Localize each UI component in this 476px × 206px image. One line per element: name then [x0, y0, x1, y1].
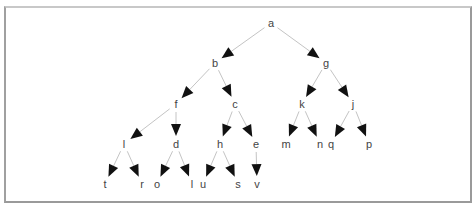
edge-a-b [231, 28, 264, 52]
arrowhead-icon [222, 124, 231, 137]
arrowhead-icon [306, 84, 316, 97]
arrowhead-icon [307, 47, 320, 58]
node-m: m [281, 138, 290, 150]
edge-k-m [293, 111, 299, 125]
node-b: b [212, 57, 218, 69]
node-t: t [103, 178, 106, 190]
node-e: e [253, 138, 259, 150]
edge-c-e [239, 111, 247, 126]
edge-j-p [356, 111, 362, 125]
edge-h-u [211, 151, 217, 165]
arrowhead-icon [357, 124, 366, 137]
arrowhead-icon [252, 164, 262, 176]
node-u: u [200, 178, 206, 190]
edge-g-j [330, 70, 342, 88]
node-a: a [268, 17, 275, 29]
node-h: h [217, 138, 223, 150]
arrowhead-icon [222, 47, 235, 58]
node-p: p [366, 138, 372, 150]
edge-h-s [223, 151, 230, 165]
arrowhead-icon [335, 124, 345, 137]
labels-layer: abgfckjldhemnqptrolusv [103, 17, 372, 190]
node-s: s [235, 178, 241, 190]
edge-l-r [127, 151, 134, 165]
edge-b-c [219, 70, 227, 86]
edge-g-k [312, 70, 322, 87]
node-r: r [140, 178, 144, 190]
edge-d-I [179, 151, 185, 165]
arrowhead-icon [289, 124, 298, 137]
node-o: o [154, 178, 160, 190]
edge-l-t [114, 151, 121, 166]
node-I: l [191, 178, 193, 190]
edge-k-n [305, 111, 312, 125]
arrowhead-icon [171, 124, 181, 136]
node-k: k [299, 98, 305, 110]
node-q: q [328, 138, 334, 150]
edge-j-q [341, 111, 350, 126]
arrowhead-icon [242, 124, 252, 137]
node-c: c [232, 98, 238, 110]
arrowhead-icon [338, 85, 349, 98]
arrowhead-icon [180, 164, 189, 177]
edge-c-h [227, 111, 232, 125]
edge-d-o [166, 151, 173, 166]
node-f: f [174, 98, 178, 110]
edge-f-l [140, 109, 170, 132]
arrowhead-icon [130, 128, 143, 139]
tree-diagram: abgfckjldhemnqptrolusv [0, 0, 476, 206]
arrowhead-icon [206, 164, 215, 177]
node-l: l [123, 138, 125, 150]
node-d: d [173, 138, 179, 150]
node-j: j [351, 98, 354, 110]
edge-a-g [277, 28, 309, 52]
node-g: g [323, 57, 329, 69]
edge-b-f [190, 69, 210, 90]
node-n: n [317, 138, 323, 150]
node-v: v [254, 178, 260, 190]
